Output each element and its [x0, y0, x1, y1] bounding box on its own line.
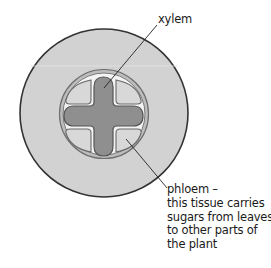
xylem-label: xylem	[158, 13, 192, 27]
phloem-label: phloem – this tissue carries sugars from…	[167, 183, 271, 252]
phloem-label-line-1: phloem –	[167, 183, 271, 197]
phloem-label-line-3: sugars from leaves	[167, 211, 271, 225]
phloem-label-line-5: the plant	[167, 238, 271, 252]
phloem-label-line-4: to other parts of	[167, 224, 271, 238]
phloem-label-line-2: this tissue carries	[167, 197, 271, 211]
xylem-label-text: xylem	[158, 13, 192, 27]
